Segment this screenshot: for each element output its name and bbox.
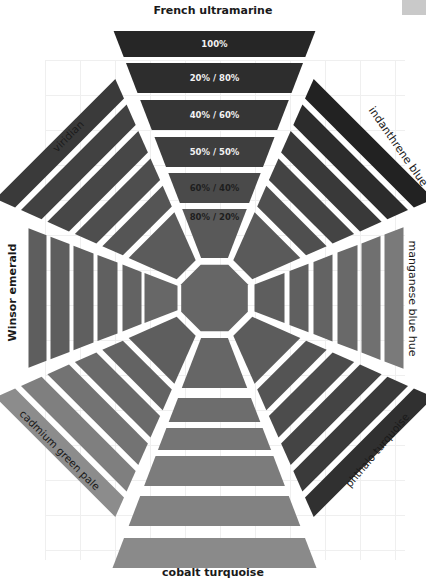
mix-ratio-label: 20% / 80% bbox=[190, 73, 240, 83]
swatch-cobalt-turquoise-3 bbox=[144, 456, 285, 486]
center-octagon bbox=[181, 265, 248, 332]
label-manganese-blue-hue: manganese blue hue bbox=[406, 239, 419, 359]
label-cobalt-turquoise: cobalt turquoise bbox=[0, 566, 426, 579]
swatch-winsor-emerald-2 bbox=[51, 237, 70, 359]
mix-ratio-label: 100% bbox=[201, 39, 228, 49]
mix-ratio-label: 60% / 40% bbox=[190, 183, 240, 193]
swatch-manganese-blue-hue-5 bbox=[290, 264, 309, 332]
swatch-winsor-emerald-4 bbox=[98, 255, 118, 341]
swatch-manganese-blue-hue-2 bbox=[362, 236, 381, 360]
swatch-winsor-emerald-1 bbox=[29, 228, 47, 367]
swatch-cobalt-turquoise-2 bbox=[129, 496, 301, 526]
swatch-manganese-blue-hue-4 bbox=[314, 255, 333, 342]
swatch-cobalt-turquoise-6 bbox=[182, 338, 247, 388]
swatch-manganese-blue-hue-6 bbox=[255, 273, 285, 323]
swatch-cobalt-turquoise-1 bbox=[113, 538, 317, 568]
swatch-winsor-emerald-5 bbox=[123, 265, 142, 332]
mix-ratio-label: 40% / 60% bbox=[190, 110, 240, 120]
label-winsor-emerald: Winsor emerald bbox=[6, 233, 19, 353]
mix-ratio-label: 50% / 50% bbox=[190, 147, 240, 157]
swatch-cobalt-turquoise-4 bbox=[158, 428, 271, 450]
swatch-manganese-blue-hue-1 bbox=[385, 227, 404, 369]
label-french-ultramarine: French ultramarine bbox=[0, 4, 426, 17]
swatch-winsor-emerald-6 bbox=[145, 273, 178, 323]
swatch-winsor-emerald-3 bbox=[74, 246, 94, 351]
swatch-manganese-blue-hue-3 bbox=[338, 245, 358, 351]
swatch-cobalt-turquoise-5 bbox=[169, 398, 261, 422]
mix-ratio-label: 80% / 20% bbox=[190, 212, 240, 222]
